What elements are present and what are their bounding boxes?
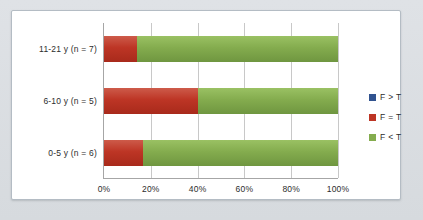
bar-segment bbox=[198, 88, 338, 114]
legend-swatch-icon bbox=[369, 94, 376, 101]
gridline bbox=[338, 23, 339, 178]
plot-area: 0%20%40%60%80%100% 11-21 y (n = 7)6-10 y… bbox=[103, 23, 338, 179]
x-tick-label: 60% bbox=[236, 184, 254, 194]
x-tick-label: 0% bbox=[98, 184, 111, 194]
x-tick-label: 40% bbox=[189, 184, 207, 194]
bar-segment bbox=[104, 88, 198, 114]
category-label: 11-21 y (n = 7) bbox=[39, 36, 97, 46]
legend-swatch-icon bbox=[369, 114, 376, 121]
legend-item[interactable]: F < T bbox=[369, 129, 421, 145]
x-tick-label: 80% bbox=[282, 184, 300, 194]
bar-segment bbox=[104, 36, 137, 62]
x-tick-label: 100% bbox=[327, 184, 350, 194]
legend-item[interactable]: F > T bbox=[369, 89, 421, 105]
bar-segment bbox=[104, 140, 143, 166]
category-label-text: 11-21 y (n = 7) bbox=[39, 44, 97, 54]
stacked-bar: 11-21 y (n = 7) bbox=[104, 36, 338, 62]
legend-label: F = T bbox=[380, 112, 401, 122]
bar-segment bbox=[137, 36, 338, 62]
stacked-bar: 6-10 y (n = 5) bbox=[104, 88, 338, 114]
legend-label: F > T bbox=[380, 92, 401, 102]
category-label: 0-5 y (n = 6) bbox=[48, 140, 97, 150]
chart-page: 0%20%40%60%80%100% 11-21 y (n = 7)6-10 y… bbox=[0, 0, 423, 220]
legend-swatch-icon bbox=[369, 134, 376, 141]
stacked-bar: 0-5 y (n = 6) bbox=[104, 140, 338, 166]
x-tick-label: 20% bbox=[142, 184, 160, 194]
legend-label: F < T bbox=[380, 132, 401, 142]
category-label-text: 6-10 y (n = 5) bbox=[43, 96, 97, 106]
category-label: 6-10 y (n = 5) bbox=[43, 88, 97, 98]
chart-legend: F > TF = TF < T bbox=[369, 89, 421, 149]
bar-segment bbox=[143, 140, 338, 166]
chart-frame: 0%20%40%60%80%100% 11-21 y (n = 7)6-10 y… bbox=[11, 10, 401, 200]
category-label-text: 0-5 y (n = 6) bbox=[48, 148, 97, 158]
legend-item[interactable]: F = T bbox=[369, 109, 421, 125]
